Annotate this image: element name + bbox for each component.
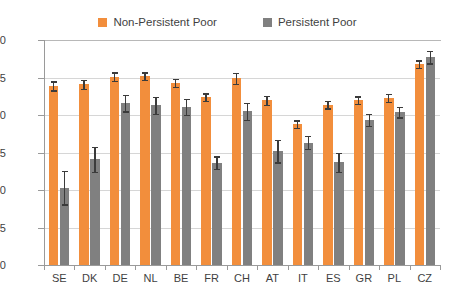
x-axis-tick-label: SE bbox=[52, 272, 67, 284]
error-bar-cap bbox=[142, 80, 148, 81]
x-axis-tick-mark bbox=[44, 265, 45, 270]
error-bar-cap bbox=[305, 149, 311, 150]
bar-group bbox=[135, 40, 165, 265]
error-bar-cap bbox=[366, 126, 372, 127]
error-bar-cap bbox=[203, 93, 209, 94]
x-axis-tick-mark bbox=[379, 265, 380, 270]
error-bar bbox=[338, 153, 339, 173]
error-bar-cap bbox=[81, 80, 87, 81]
error-bar bbox=[94, 147, 95, 173]
y-axis-tick-label: 0.75 bbox=[0, 72, 6, 84]
error-bar-cap bbox=[153, 97, 159, 98]
bar bbox=[384, 98, 394, 265]
x-axis-tick-mark bbox=[257, 265, 258, 270]
error-bar bbox=[64, 171, 65, 205]
bar bbox=[182, 107, 192, 265]
bar bbox=[334, 162, 344, 265]
error-bar bbox=[369, 114, 370, 126]
x-axis-tick-label: FR bbox=[204, 272, 219, 284]
x-axis-tick-mark bbox=[227, 265, 228, 270]
error-bar-cap bbox=[62, 171, 68, 172]
bar bbox=[365, 120, 375, 266]
x-axis-tick-label: CH bbox=[234, 272, 250, 284]
bar-group bbox=[74, 40, 104, 265]
bar-group bbox=[257, 40, 287, 265]
error-bar-cap bbox=[173, 79, 179, 80]
axis-top-rule bbox=[44, 40, 441, 41]
y-axis-tick-label: 0.70 bbox=[0, 109, 6, 121]
error-bar bbox=[236, 73, 237, 84]
x-axis-tick-mark bbox=[349, 265, 350, 270]
y-axis-tick-label: 0.50 bbox=[0, 259, 6, 271]
x-axis-tick-mark bbox=[105, 265, 106, 270]
legend-entry-persistent-poor: Persistent Poor bbox=[263, 16, 357, 28]
legend-entry-non-persistent-poor: Non-Persistent Poor bbox=[98, 16, 217, 28]
bar bbox=[121, 103, 131, 265]
error-bar-cap bbox=[233, 73, 239, 74]
error-bar-cap bbox=[62, 204, 68, 205]
error-bar-cap bbox=[184, 99, 190, 100]
error-bar-cap bbox=[336, 153, 342, 154]
error-bar-cap bbox=[244, 103, 250, 104]
legend-label: Non-Persistent Poor bbox=[113, 16, 217, 28]
error-bar bbox=[308, 136, 309, 149]
error-bar-cap bbox=[112, 81, 118, 82]
error-bar-cap bbox=[397, 107, 403, 108]
error-bar-cap bbox=[264, 105, 270, 106]
error-bar-cap bbox=[142, 72, 148, 73]
bar bbox=[151, 105, 161, 265]
bar bbox=[395, 112, 405, 265]
x-axis-tick-mark bbox=[196, 265, 197, 270]
bar bbox=[293, 124, 303, 265]
error-bar-cap bbox=[51, 81, 57, 82]
error-bar-cap bbox=[214, 156, 220, 157]
error-bar-cap bbox=[325, 101, 331, 102]
bar bbox=[201, 97, 211, 265]
error-bar-cap bbox=[244, 120, 250, 121]
plot-area bbox=[44, 40, 440, 265]
x-axis-tick-label: IT bbox=[298, 272, 308, 284]
error-bar-cap bbox=[305, 136, 311, 137]
bar bbox=[140, 76, 150, 265]
bar-group bbox=[227, 40, 257, 265]
error-bar-cap bbox=[92, 172, 98, 173]
bar-group bbox=[349, 40, 379, 265]
error-bar-cap bbox=[92, 147, 98, 148]
error-bar-cap bbox=[355, 96, 361, 97]
x-axis-tick-mark bbox=[440, 265, 441, 270]
bar bbox=[90, 159, 100, 265]
bar bbox=[304, 143, 314, 265]
bar-group bbox=[105, 40, 135, 265]
error-bar-cap bbox=[153, 114, 159, 115]
error-bar-cap bbox=[366, 114, 372, 115]
error-bar bbox=[277, 140, 278, 163]
error-bar bbox=[125, 95, 126, 112]
error-bar-cap bbox=[214, 169, 220, 170]
square-swatch-icon bbox=[263, 18, 272, 27]
error-bar-cap bbox=[294, 120, 300, 121]
bar-group bbox=[166, 40, 196, 265]
error-bar-cap bbox=[275, 140, 281, 141]
x-axis-tick-mark bbox=[288, 265, 289, 270]
x-axis-tick-label: BE bbox=[174, 272, 189, 284]
y-axis-tick-label: 0.65 bbox=[0, 147, 6, 159]
error-bar-cap bbox=[264, 96, 270, 97]
y-axis-tick-label: 0.60 bbox=[0, 184, 6, 196]
bar bbox=[212, 163, 222, 265]
bar-group bbox=[288, 40, 318, 265]
error-bar-cap bbox=[184, 115, 190, 116]
y-axis-tick-label: 0.80 bbox=[0, 34, 6, 46]
x-axis-tick-mark bbox=[74, 265, 75, 270]
bar bbox=[79, 84, 89, 265]
error-bar-cap bbox=[123, 95, 129, 96]
x-axis-tick-mark bbox=[318, 265, 319, 270]
x-axis-tick-mark bbox=[410, 265, 411, 270]
y-axis-tick-mark bbox=[38, 153, 44, 154]
x-axis-tick-label: DE bbox=[113, 272, 128, 284]
x-axis-tick-mark bbox=[135, 265, 136, 270]
bar bbox=[426, 57, 436, 265]
error-bar-cap bbox=[325, 108, 331, 109]
x-axis-tick-label: GR bbox=[356, 272, 373, 284]
error-bar-cap bbox=[203, 101, 209, 102]
error-bar-cap bbox=[386, 102, 392, 103]
